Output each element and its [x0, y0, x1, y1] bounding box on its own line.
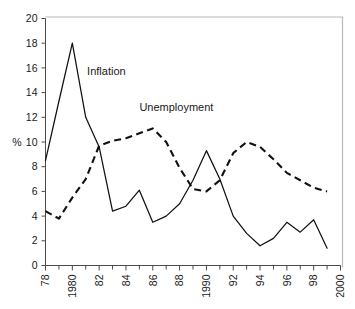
- x-tick-label: 78: [39, 274, 51, 286]
- y-tick-label: 2: [32, 234, 38, 246]
- x-tick-label: 92: [227, 274, 239, 286]
- y-tick-label: 0: [32, 259, 38, 271]
- series-line-unemployment: [46, 128, 328, 218]
- y-axis-label: %: [12, 136, 21, 148]
- series-annotations: Inflation Unemployment: [87, 65, 213, 113]
- x-tick-label: 96: [281, 274, 293, 286]
- y-tick-label: 18: [26, 37, 38, 49]
- y-axis: 02468101214161820: [26, 12, 46, 271]
- x-tick-label: 82: [93, 274, 105, 286]
- y-tick-label: 8: [32, 160, 38, 172]
- y-tick-label: 20: [26, 12, 38, 24]
- axis-titles: %: [12, 136, 21, 148]
- y-tick-label: 6: [32, 185, 38, 197]
- y-tick-label: 4: [32, 210, 38, 222]
- chart-container: 02468101214161820 7819808284868819909294…: [0, 0, 355, 309]
- y-tick-label: 14: [26, 86, 38, 98]
- series-label-unemployment: Unemployment: [139, 101, 213, 113]
- x-tick-label: 86: [147, 274, 159, 286]
- x-tick-label: 1990: [200, 274, 212, 298]
- x-tick-label: 84: [120, 274, 132, 286]
- y-tick-label: 12: [26, 111, 38, 123]
- x-tick-label: 98: [307, 274, 319, 286]
- series-label-inflation: Inflation: [87, 65, 126, 77]
- x-tick-label: 1980: [66, 274, 78, 298]
- x-tick-label: 2000: [334, 274, 346, 298]
- line-chart: 02468101214161820 7819808284868819909294…: [0, 0, 355, 309]
- x-tick-label: 94: [254, 274, 266, 286]
- x-tick-label: 88: [173, 274, 185, 286]
- y-tick-label: 10: [26, 136, 38, 148]
- y-tick-label: 16: [26, 62, 38, 74]
- x-axis: 781980828486881990929496982000: [39, 266, 346, 298]
